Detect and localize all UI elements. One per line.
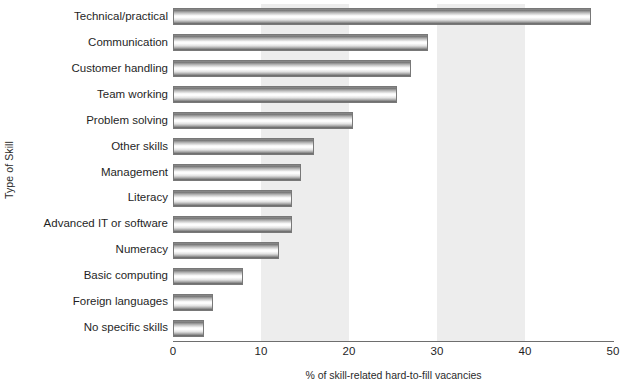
- category-label: Foreign languages: [18, 289, 168, 315]
- bar[interactable]: [173, 164, 301, 181]
- bar-row[interactable]: [173, 263, 243, 289]
- category-label: Other skills: [18, 134, 168, 160]
- bar[interactable]: [173, 112, 353, 129]
- x-tick-label: 10: [255, 345, 268, 357]
- x-tick-label: 30: [431, 345, 444, 357]
- category-label: Literacy: [18, 185, 168, 211]
- category-label: Problem solving: [18, 108, 168, 134]
- x-tick-label: 20: [343, 345, 356, 357]
- bar-series: [173, 4, 613, 341]
- bar-row[interactable]: [173, 185, 292, 211]
- bar[interactable]: [173, 268, 243, 285]
- bar-chart: Type of Skill Technical/practicalCommuni…: [0, 0, 634, 391]
- bar[interactable]: [173, 34, 428, 51]
- category-label: Advanced IT or software: [18, 211, 168, 237]
- bar-row[interactable]: [173, 56, 411, 82]
- bar-row[interactable]: [173, 4, 591, 30]
- category-label: Team working: [18, 82, 168, 108]
- x-tick-label: 0: [170, 345, 176, 357]
- bar[interactable]: [173, 86, 397, 103]
- category-label: Customer handling: [18, 56, 168, 82]
- bar[interactable]: [173, 242, 279, 259]
- bar-row[interactable]: [173, 82, 397, 108]
- bar[interactable]: [173, 216, 292, 233]
- bar[interactable]: [173, 138, 314, 155]
- bar-row[interactable]: [173, 30, 428, 56]
- category-label: Technical/practical: [18, 4, 168, 30]
- x-tick-label: 50: [607, 345, 620, 357]
- bar-row[interactable]: [173, 108, 353, 134]
- x-axis-title: % of skill-related hard-to-fill vacancie…: [173, 369, 614, 381]
- y-axis-title: Type of Skill: [0, 0, 18, 340]
- bar-row[interactable]: [173, 237, 279, 263]
- y-axis-title-text: Type of Skill: [3, 141, 15, 199]
- category-label: Basic computing: [18, 263, 168, 289]
- bar[interactable]: [173, 190, 292, 207]
- bar[interactable]: [173, 294, 213, 311]
- bar-row[interactable]: [173, 134, 314, 160]
- category-label: Communication: [18, 30, 168, 56]
- category-label: No specific skills: [18, 315, 168, 341]
- category-label: Management: [18, 160, 168, 186]
- bar-row[interactable]: [173, 315, 204, 341]
- x-tick-label: 40: [519, 345, 532, 357]
- bar[interactable]: [173, 320, 204, 337]
- y-axis-tick-labels: Technical/practicalCommunicationCustomer…: [18, 4, 168, 341]
- x-axis-line: [173, 341, 614, 342]
- category-label: Numeracy: [18, 237, 168, 263]
- x-axis-tick-labels: 01020304050: [173, 345, 614, 363]
- plot-area: [173, 4, 613, 341]
- bar[interactable]: [173, 60, 411, 77]
- bar-row[interactable]: [173, 289, 213, 315]
- bar[interactable]: [173, 8, 591, 25]
- bar-row[interactable]: [173, 160, 301, 186]
- bar-row[interactable]: [173, 211, 292, 237]
